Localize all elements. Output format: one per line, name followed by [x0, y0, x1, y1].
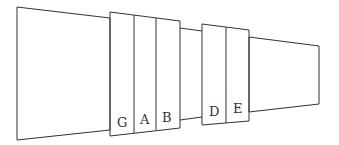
- diagram-canvas: G A B D E: [0, 0, 339, 145]
- connector-top: [180, 28, 202, 31]
- label-a: A: [139, 112, 150, 127]
- label-e: E: [233, 101, 243, 116]
- label-d: D: [209, 104, 219, 119]
- left-trapezoid: [17, 7, 110, 140]
- right-trapezoid: [249, 37, 319, 112]
- connector-bottom: [180, 117, 202, 120]
- label-b: B: [162, 110, 172, 125]
- label-g: G: [117, 115, 127, 130]
